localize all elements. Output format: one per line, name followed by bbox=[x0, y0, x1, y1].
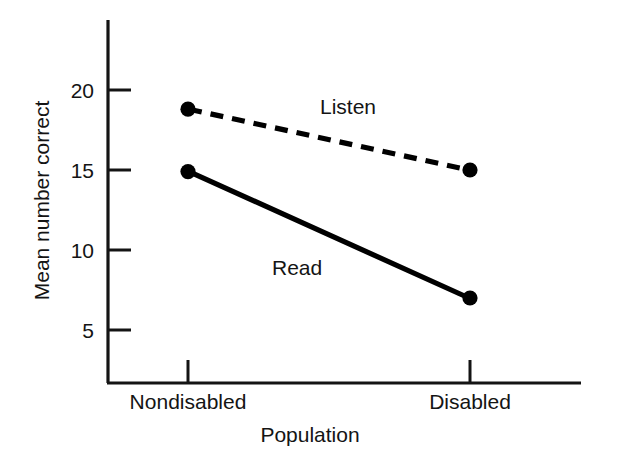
x-tick-label-nondisabled: Nondisabled bbox=[108, 391, 268, 412]
datapoint-listen-nondisabled bbox=[180, 102, 195, 117]
series-annotation-listen: Listen bbox=[320, 96, 376, 117]
series-line-listen bbox=[189, 109, 469, 170]
series-annotation-read: Read bbox=[272, 257, 322, 278]
y-tick-label-20: 20 bbox=[48, 80, 94, 101]
line-chart-figure: 20 15 10 5 Nondisabled Disabled Populati… bbox=[0, 0, 618, 459]
datapoint-read-disabled bbox=[462, 290, 477, 305]
datapoint-listen-disabled bbox=[462, 162, 477, 177]
y-tick-label-15: 15 bbox=[48, 160, 94, 181]
y-tick-label-10: 10 bbox=[48, 240, 94, 261]
x-axis-title: Population bbox=[230, 424, 390, 445]
datapoint-read-nondisabled bbox=[180, 164, 195, 179]
x-tick-label-disabled: Disabled bbox=[412, 391, 528, 412]
y-tick-label-5: 5 bbox=[48, 320, 94, 341]
y-axis-title: Mean number correct bbox=[31, 91, 52, 311]
series-line-read bbox=[189, 172, 469, 298]
